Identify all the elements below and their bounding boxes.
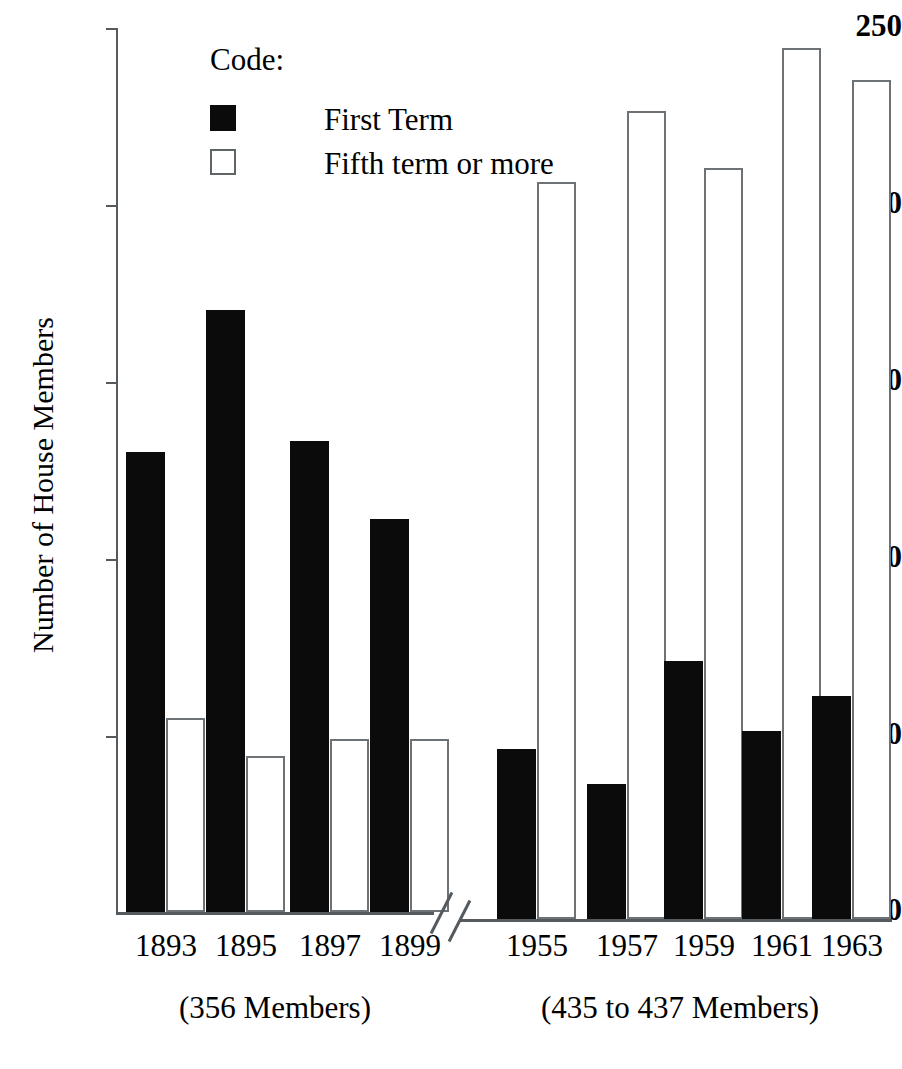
bar-first-term-1957 — [587, 784, 626, 919]
bar-fifth-term-1963 — [852, 80, 891, 919]
bar-fifth-term-1957 — [627, 111, 666, 919]
x-axis-label-1963: 1963 — [797, 928, 902, 964]
bar-fifth-term-1955 — [537, 182, 576, 919]
bar-first-term-1959 — [664, 661, 703, 919]
bar-fifth-term-1959 — [704, 168, 743, 919]
bar-first-term-1893 — [126, 452, 165, 912]
bar-fifth-term-1899 — [410, 739, 449, 912]
bar-first-term-1963 — [812, 696, 851, 919]
bar-first-term-1961 — [742, 731, 781, 919]
x-axis-baseline-right — [460, 919, 892, 922]
bar-first-term-1895 — [206, 310, 245, 912]
x-axis-baseline-left — [116, 912, 434, 915]
x-axis-label-1899: 1899 — [355, 928, 465, 964]
bar-first-term-1897 — [290, 441, 329, 912]
group-caption-left: (356 Members) — [110, 990, 440, 1026]
bar-first-term-1955 — [497, 749, 536, 919]
bar-chart: 250 200 150 100 50 0 Number of House Mem… — [0, 0, 902, 1069]
bar-fifth-term-1895 — [246, 756, 285, 912]
bar-fifth-term-1897 — [330, 739, 369, 912]
bar-first-term-1899 — [370, 519, 409, 912]
bar-fifth-term-1893 — [166, 718, 205, 912]
group-caption-right: (435 to 437 Members) — [470, 990, 890, 1026]
plot-area — [0, 0, 902, 1069]
